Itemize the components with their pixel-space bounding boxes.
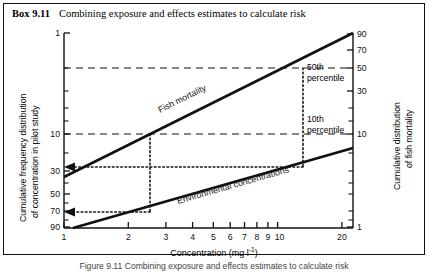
- box-title: Box 9.11Combining exposure and effects e…: [12, 8, 306, 19]
- box-label: Box 9.11: [12, 8, 50, 19]
- figure-caption: Figure 9.11 Combining exposure and effec…: [0, 261, 428, 274]
- box-title-text: Combining exposure and effects estimates…: [59, 8, 306, 19]
- annotation-10th-percentile: 10thpercentile: [307, 114, 344, 135]
- annotation-50th-percentile: 50thpercentile: [307, 62, 344, 83]
- y-right-axis-label-line1: Cumulative distribution: [392, 102, 402, 190]
- figure-box: Box 9.11Combining exposure and effects e…: [0, 0, 428, 276]
- box-frame: [3, 3, 425, 255]
- y-left-axis-label-line1: Cumulative frequency distribution: [18, 94, 28, 222]
- y-right-axis-label-line2: of fish mortality: [404, 110, 414, 168]
- y-left-axis-label-line2: of concentration in pilot study: [30, 105, 40, 218]
- x-axis-label: Concentration (mg l-1): [0, 246, 428, 258]
